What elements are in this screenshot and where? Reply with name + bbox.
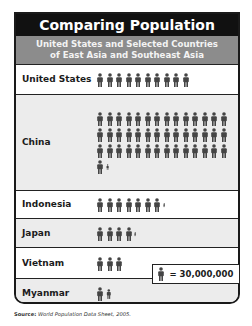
person-icon: [172, 112, 180, 126]
person-icon: [96, 257, 104, 271]
person-icon: [115, 73, 123, 87]
legend-text: = 30,000,000: [170, 269, 234, 279]
person-icon: [182, 144, 190, 158]
person-icon: [125, 227, 133, 241]
person-icon: [210, 112, 218, 126]
person-icon: [96, 112, 104, 126]
person-icon: [191, 144, 199, 158]
person-icon: [220, 112, 228, 126]
person-icon: [115, 112, 123, 126]
source-label: Source:: [14, 311, 36, 317]
person-icon: [106, 160, 109, 174]
person-icon: [163, 198, 165, 212]
chart-subtitle: United States and Selected Countries of …: [16, 36, 238, 64]
country-row: Indonesia: [16, 190, 238, 218]
person-icon: [153, 73, 161, 87]
person-icon: [115, 257, 123, 271]
person-icon: [172, 144, 180, 158]
country-row: United States: [16, 64, 238, 94]
person-icon: [153, 112, 161, 126]
person-icon: [106, 287, 112, 301]
person-icon: [220, 128, 228, 142]
person-icon: [163, 112, 171, 126]
person-icon: [125, 128, 133, 142]
person-icon: [210, 144, 218, 158]
person-icon: [125, 144, 133, 158]
subtitle-line-2: of East Asia and Southeast Asia: [16, 50, 238, 61]
country-row: Japan: [16, 218, 238, 247]
person-icon: [134, 112, 142, 126]
person-icon: [153, 128, 161, 142]
person-icon: [144, 73, 152, 87]
person-icon: [96, 128, 104, 142]
person-icon: [182, 112, 190, 126]
population-icons: [96, 198, 236, 212]
person-icon: [134, 227, 136, 241]
person-icon: [106, 227, 114, 241]
person-icon: [191, 128, 199, 142]
person-icon: [96, 198, 104, 212]
country-label: United States: [22, 74, 91, 84]
person-icon: [182, 128, 190, 142]
person-icon: [134, 73, 142, 87]
person-icon: [115, 227, 123, 241]
person-icon: [106, 112, 114, 126]
population-icons: [96, 73, 236, 87]
person-icon: [172, 73, 180, 87]
subtitle-line-1: United States and Selected Countries: [16, 39, 238, 50]
country-label: Vietnam: [22, 258, 64, 268]
person-icon: [134, 128, 142, 142]
person-icon: [201, 112, 209, 126]
person-icon: [182, 73, 190, 87]
source-note: Source: World Population Data Sheet, 200…: [14, 311, 131, 317]
country-label: Indonesia: [22, 199, 71, 209]
population-icons: [96, 287, 236, 301]
person-icon: [144, 128, 152, 142]
person-icon: [96, 227, 104, 241]
person-icon: [106, 257, 114, 271]
person-icon: [210, 128, 218, 142]
chart-title: Comparing Population: [16, 14, 238, 36]
country-label: Japan: [22, 228, 50, 238]
person-icon: [115, 128, 123, 142]
person-icon: [115, 198, 123, 212]
person-icon: [115, 144, 123, 158]
person-icon: [125, 198, 133, 212]
country-label: China: [22, 137, 51, 147]
person-icon: [153, 198, 161, 212]
population-icons: [96, 227, 236, 241]
person-icon: [134, 144, 142, 158]
pictograph-panel: Comparing Population United States and S…: [14, 12, 240, 304]
person-icon: [96, 144, 104, 158]
legend: = 30,000,000: [152, 264, 240, 284]
person-icon: [106, 198, 114, 212]
person-icon: [153, 144, 161, 158]
source-text: World Population Data Sheet, 2005.: [38, 311, 131, 317]
person-icon: [163, 144, 171, 158]
person-icon: [106, 73, 114, 87]
person-icon: [125, 112, 133, 126]
person-icon: [144, 144, 152, 158]
person-icon: [96, 160, 104, 174]
population-icons: [96, 112, 236, 174]
person-icon: [144, 198, 152, 212]
person-icon: [201, 128, 209, 142]
person-icon: [106, 144, 114, 158]
person-icon: [191, 112, 199, 126]
person-icon: [96, 287, 104, 301]
person-icon: [163, 73, 171, 87]
person-icon: [106, 128, 114, 142]
person-icon: [163, 128, 171, 142]
person-icon: [220, 144, 228, 158]
person-icon: [144, 112, 152, 126]
person-icon: [134, 198, 142, 212]
country-label: Myanmar: [22, 288, 69, 298]
person-icon: [96, 73, 104, 87]
person-icon: [172, 128, 180, 142]
person-icon: [125, 73, 133, 87]
person-icon: [157, 267, 165, 281]
country-row: China: [16, 94, 238, 190]
person-icon: [201, 144, 209, 158]
